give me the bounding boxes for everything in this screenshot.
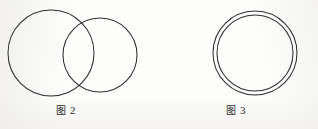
figure-3-caption-label: 图 <box>226 105 237 116</box>
right-circle <box>63 18 137 92</box>
figure-2: 图 2 <box>0 0 160 129</box>
figure-sheet: 图 2 图 3 <box>0 0 318 129</box>
figure-3: 图 3 <box>160 0 318 129</box>
figure-2-caption-number: 2 <box>70 104 76 116</box>
figure-3-caption-number: 3 <box>240 104 246 116</box>
figure-3-caption: 图 3 <box>157 104 315 117</box>
figure-2-caption: 图 2 <box>0 104 146 117</box>
inner-circle <box>217 15 293 91</box>
figure-2-caption-label: 图 <box>56 105 67 116</box>
two-overlapping-circles-diagram <box>0 0 160 100</box>
outer-circle <box>213 11 297 95</box>
two-concentric-circles-diagram <box>160 0 318 100</box>
